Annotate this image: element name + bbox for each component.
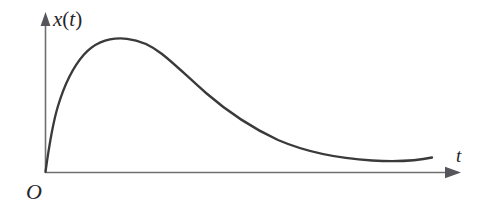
y-axis-arrowhead bbox=[41, 12, 51, 26]
origin-label: O bbox=[26, 179, 42, 204]
figure-canvas: x(t) t O bbox=[0, 0, 485, 212]
x-axis-label: t bbox=[456, 145, 462, 166]
y-axis-label: x(t) bbox=[52, 7, 82, 31]
curve-xt bbox=[46, 38, 433, 171]
x-axis-arrowhead bbox=[445, 167, 461, 178]
y-axis-label-close-paren: ) bbox=[75, 7, 82, 31]
y-axis-label-open-paren: ( bbox=[62, 7, 69, 31]
curve-plot: x(t) t O bbox=[0, 0, 485, 212]
